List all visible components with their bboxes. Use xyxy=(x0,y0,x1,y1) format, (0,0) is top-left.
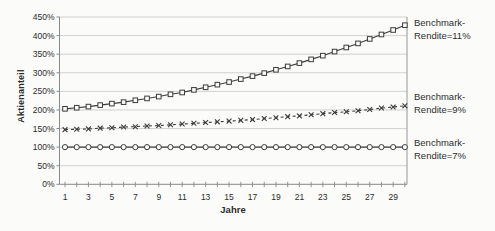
marker-square xyxy=(133,98,138,103)
marker-circle xyxy=(238,145,243,150)
marker-square xyxy=(192,88,197,93)
x-tick-label: 23 xyxy=(318,192,328,202)
marker-square xyxy=(180,90,185,95)
marker-circle xyxy=(156,145,161,150)
x-tick-label: 25 xyxy=(342,192,352,202)
series-label-line: Rendite=7% xyxy=(414,149,494,162)
marker-circle xyxy=(74,145,79,150)
marker-circle xyxy=(379,145,384,150)
marker-square xyxy=(274,67,279,72)
x-tick-label: 9 xyxy=(156,192,161,202)
series-label-benchmark-9: Benchmark- Rendite=9% xyxy=(414,90,494,116)
y-tick-label: 0% xyxy=(42,179,55,189)
y-tick-label: 350% xyxy=(33,49,55,59)
marker-square xyxy=(332,49,337,54)
marker-square xyxy=(309,57,314,62)
marker-circle xyxy=(168,145,173,150)
marker-circle xyxy=(285,145,290,150)
series-benchmark-rendite-11- xyxy=(63,23,407,111)
marker-circle xyxy=(203,145,208,150)
marker-circle xyxy=(98,145,103,150)
x-tick-label: 13 xyxy=(201,192,211,202)
marker-square xyxy=(356,41,361,46)
marker-circle xyxy=(180,145,185,150)
marker-circle xyxy=(402,145,407,150)
marker-circle xyxy=(273,145,278,150)
marker-circle xyxy=(121,145,126,150)
y-tick-label: 150% xyxy=(33,124,55,134)
marker-square xyxy=(168,92,173,97)
x-tick-label: 21 xyxy=(295,192,305,202)
series-label-line: Rendite=11% xyxy=(414,29,494,42)
marker-square xyxy=(344,45,349,50)
marker-circle xyxy=(355,145,360,150)
x-axis-ticks: 1357911131517192123252729 xyxy=(63,182,405,202)
x-tick-label: 3 xyxy=(86,192,91,202)
marker-square xyxy=(145,96,150,101)
marker-square xyxy=(321,53,326,58)
series-benchmark-rendite-9- xyxy=(63,103,408,132)
marker-circle xyxy=(144,145,149,150)
marker-circle xyxy=(297,145,302,150)
y-axis-title: Aktienanteil xyxy=(16,56,26,136)
y-tick-label: 200% xyxy=(33,105,55,115)
y-tick-label: 400% xyxy=(33,31,55,41)
marker-square xyxy=(391,28,396,33)
series-label-benchmark-7: Benchmark- Rendite=7% xyxy=(414,136,494,162)
y-tick-label: 50% xyxy=(37,161,54,171)
x-tick-label: 29 xyxy=(388,192,398,202)
series-line xyxy=(65,106,405,130)
marker-x xyxy=(262,116,267,121)
series-benchmark-rendite-7- xyxy=(62,145,407,150)
x-tick-label: 27 xyxy=(365,192,375,202)
x-tick-label: 17 xyxy=(248,192,258,202)
marker-circle xyxy=(250,145,255,150)
series-label-benchmark-11: Benchmark- Rendite=11% xyxy=(414,16,494,42)
marker-square xyxy=(156,94,161,99)
marker-circle xyxy=(391,145,396,150)
marker-square xyxy=(63,107,68,112)
marker-square xyxy=(121,100,126,105)
marker-circle xyxy=(320,145,325,150)
y-tick-label: 300% xyxy=(33,68,55,78)
marker-circle xyxy=(226,145,231,150)
marker-square xyxy=(297,61,302,66)
marker-square xyxy=(215,82,220,87)
marker-circle xyxy=(344,145,349,150)
marker-circle xyxy=(215,145,220,150)
series-label-line: Rendite=9% xyxy=(414,103,494,116)
x-tick-label: 5 xyxy=(110,192,115,202)
marker-square xyxy=(239,77,244,82)
x-tick-label: 19 xyxy=(271,192,281,202)
y-tick-label: 250% xyxy=(33,86,55,96)
axes xyxy=(60,17,408,184)
marker-circle xyxy=(133,145,138,150)
gridlines xyxy=(60,17,408,166)
marker-square xyxy=(98,103,103,108)
marker-circle xyxy=(62,145,67,150)
x-tick-label: 15 xyxy=(224,192,234,202)
marker-square xyxy=(403,23,408,28)
marker-square xyxy=(367,37,372,42)
marker-square xyxy=(379,32,384,37)
marker-circle xyxy=(309,145,314,150)
y-tick-label: 100% xyxy=(33,142,55,152)
x-axis-title: Jahre xyxy=(193,204,273,215)
y-tick-label: 450% xyxy=(33,12,55,22)
marker-circle xyxy=(262,145,267,150)
x-tick-label: 11 xyxy=(178,192,187,202)
series-label-line: Benchmark- xyxy=(414,16,494,29)
marker-circle xyxy=(86,145,91,150)
marker-square xyxy=(227,80,232,85)
marker-square xyxy=(285,64,290,69)
x-tick-label: 7 xyxy=(133,192,138,202)
marker-square xyxy=(86,104,91,109)
series-line xyxy=(65,25,405,109)
x-tick-label: 1 xyxy=(63,192,68,202)
marker-square xyxy=(203,85,208,90)
marker-square xyxy=(110,101,115,106)
y-axis-ticks: 0%50%100%150%200%250%300%350%400%450% xyxy=(33,12,60,189)
marker-circle xyxy=(109,145,114,150)
marker-circle xyxy=(367,145,372,150)
marker-square xyxy=(250,74,255,79)
